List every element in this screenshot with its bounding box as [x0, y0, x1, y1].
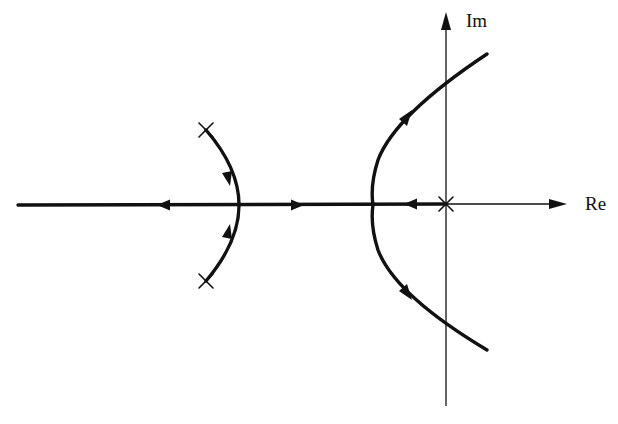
- arrow-left-icon: [404, 199, 417, 210]
- arrow-left-icon: [157, 200, 170, 211]
- pole-upper-left-icon: [199, 123, 213, 137]
- root-locus-diagram: Im Re: [0, 0, 618, 424]
- imaginary-axis-arrow-icon: [441, 12, 451, 30]
- real-axis-arrow-icon: [549, 199, 567, 209]
- arrow-up-icon: [222, 224, 232, 239]
- pole-lower-left-icon: [199, 274, 213, 288]
- real-axis-locus: [18, 199, 446, 211]
- imag-axis-label: Im: [466, 10, 487, 31]
- arrow-right-icon: [291, 200, 304, 211]
- imaginary-axis: [441, 12, 451, 406]
- real-axis-label: Re: [585, 193, 606, 214]
- arrow-down-icon: [222, 171, 232, 186]
- right-parabola-locus: [372, 54, 487, 350]
- real-axis: [446, 199, 567, 209]
